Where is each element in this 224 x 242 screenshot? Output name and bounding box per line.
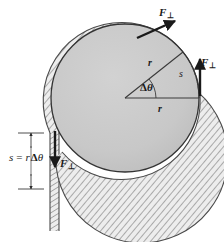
force-symbol-top: F xyxy=(159,6,166,18)
arc-length-equation: s=rΔθ xyxy=(9,152,43,163)
figure-canvas xyxy=(0,0,224,242)
equation-theta: θ xyxy=(38,151,43,163)
delta-symbol: Δ xyxy=(140,81,147,93)
radius-label-lower: r xyxy=(158,104,162,114)
force-symbol-right: F xyxy=(201,56,208,68)
physics-figure: F⊥ F⊥ F⊥ r r s Δθ s=rΔθ xyxy=(0,0,224,242)
force-label-bottom: F⊥ xyxy=(60,158,75,171)
force-label-right: F⊥ xyxy=(201,57,216,70)
perpendicular-icon: ⊥ xyxy=(209,61,216,70)
theta-symbol: θ xyxy=(147,81,153,93)
force-symbol-bottom: F xyxy=(60,157,67,169)
perpendicular-icon: ⊥ xyxy=(68,162,75,171)
equation-lhs: s xyxy=(9,151,13,163)
equation-delta: Δ xyxy=(31,151,38,163)
equation-equals: = xyxy=(16,151,22,163)
arc-length-label: s xyxy=(179,69,183,79)
angle-label: Δθ xyxy=(140,82,153,93)
equation-radius: r xyxy=(26,151,30,163)
radius-label-upper: r xyxy=(148,58,152,68)
perpendicular-icon: ⊥ xyxy=(167,11,174,20)
force-label-top: F⊥ xyxy=(159,7,174,20)
